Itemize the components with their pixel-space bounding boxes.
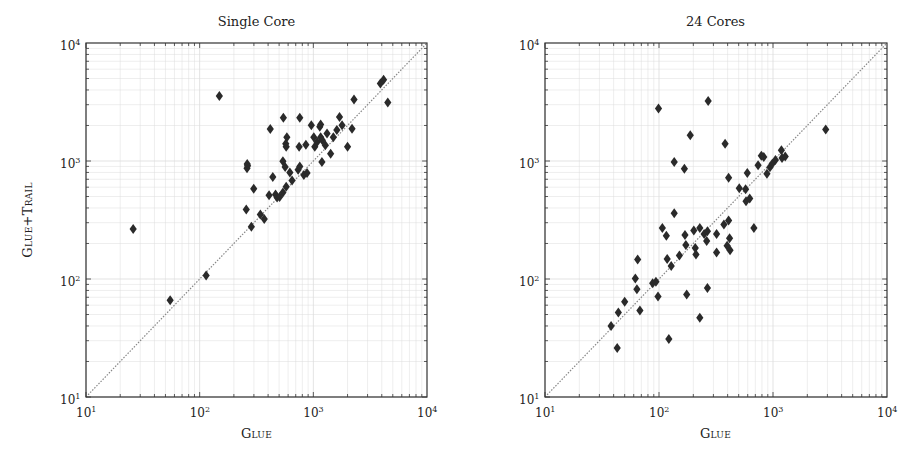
data-point [280,113,287,123]
x-tick-label: 103 [303,404,323,419]
data-point [308,120,315,130]
x-tick-label: 104 [417,404,437,419]
data-point [636,306,643,316]
y-tick-label: 104 [60,37,80,52]
data-point [690,225,697,235]
data-point [725,173,732,183]
x-tick-label: 101 [535,404,555,419]
y-tick-label: 101 [60,391,80,406]
y-tick-label: 103 [519,155,539,170]
x-axis-label: Glue [86,426,427,441]
data-point [682,240,689,250]
data-point [350,95,357,105]
y-tick-label: 104 [519,37,539,52]
diagonal-reference-line [86,43,427,397]
data-point [736,183,743,193]
data-point [318,157,325,167]
data-point [713,229,720,239]
data-point [671,157,678,167]
data-point [671,208,678,218]
data-point [744,168,751,178]
data-point [632,273,639,283]
data-point [384,98,391,108]
x-tick-label: 104 [877,404,897,419]
x-tick-label: 101 [76,404,96,419]
data-point [302,140,309,150]
data-point [655,104,662,114]
data-point [665,334,672,344]
data-point [676,251,683,261]
data-point [713,247,720,257]
x-tick-label: 102 [190,404,210,419]
data-point [705,96,712,106]
data-point [683,289,690,299]
panel-24-cores: 24 Cores Glue 101101102102103103104104 [460,0,920,465]
data-point [615,308,622,318]
data-point [750,223,757,233]
data-point [634,255,641,265]
data-point [265,190,272,200]
data-point [614,343,621,353]
data-point [663,231,670,241]
data-point [243,205,250,215]
data-point [296,142,303,152]
data-point [333,125,340,135]
data-point [130,224,137,234]
data-point [654,292,661,302]
data-point [348,124,355,134]
data-point [664,254,671,264]
data-point [742,184,749,194]
y-tick-label: 102 [60,273,80,288]
y-tick-label: 102 [519,273,539,288]
diagonal-reference-line [545,43,887,397]
data-point [659,223,666,233]
y-tick-label: 101 [519,391,539,406]
data-point [344,142,351,152]
data-point [167,295,174,305]
data-point [633,284,640,294]
x-axis-label: Glue [545,426,886,441]
data-point [216,91,223,101]
data-point [822,124,829,134]
x-tick-label: 102 [649,404,669,419]
data-point [250,184,257,194]
data-point [687,130,694,140]
data-point [269,172,276,182]
y-tick-label: 103 [60,155,80,170]
data-point [696,313,703,323]
data-point [327,149,334,159]
data-point [330,132,337,142]
x-tick-label: 103 [763,404,783,419]
data-point [323,129,330,139]
data-point [681,230,688,240]
y-axis-label: Glue+Trail [20,182,35,257]
panel-single-core: Single Core Glue+Trail Glue 101101102102… [0,0,460,465]
